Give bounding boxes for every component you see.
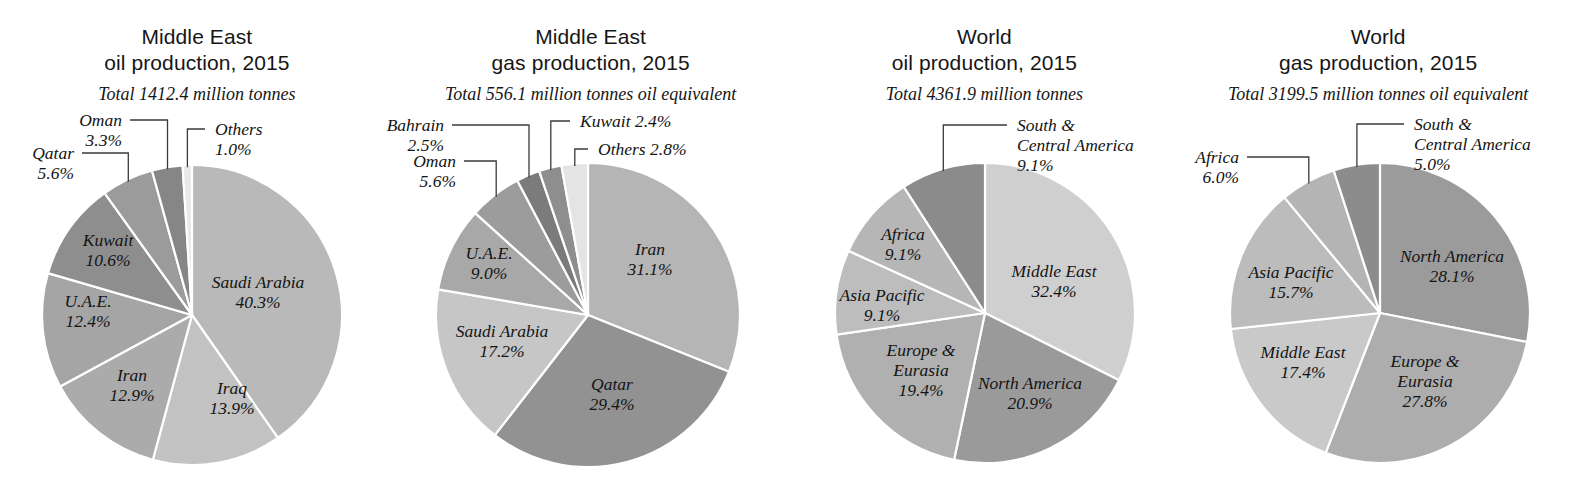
label-text: 27.8% xyxy=(1402,391,1447,411)
callout-label-group: South &Central America5.0% xyxy=(1414,114,1531,174)
leader-line xyxy=(1247,157,1309,184)
label-text: 5.0% xyxy=(1414,154,1450,174)
leader-line xyxy=(1357,124,1404,167)
callout-label-group: Africa6.0% xyxy=(1194,147,1239,187)
pie-chart-figure: Middle Eastoil production, 2015Total 141… xyxy=(0,0,1575,492)
label-text: Asia Pacific xyxy=(1247,262,1333,282)
label-text: Middle East xyxy=(1259,342,1346,362)
label-text: 17.4% xyxy=(1280,362,1325,382)
label-text: 28.1% xyxy=(1429,266,1474,286)
label-text: 6.0% xyxy=(1203,167,1239,187)
label-text: North America xyxy=(1399,246,1504,266)
label-text: Eurasia xyxy=(1396,371,1453,391)
label-text: Africa xyxy=(1194,147,1239,167)
pie-4-svg: North America28.1%Europe &Eurasia27.8%Mi… xyxy=(0,0,1575,492)
label-text: South & xyxy=(1414,114,1472,134)
label-text: Central America xyxy=(1414,134,1531,154)
label-text: 15.7% xyxy=(1268,282,1313,302)
label-text: Europe & xyxy=(1390,351,1460,371)
